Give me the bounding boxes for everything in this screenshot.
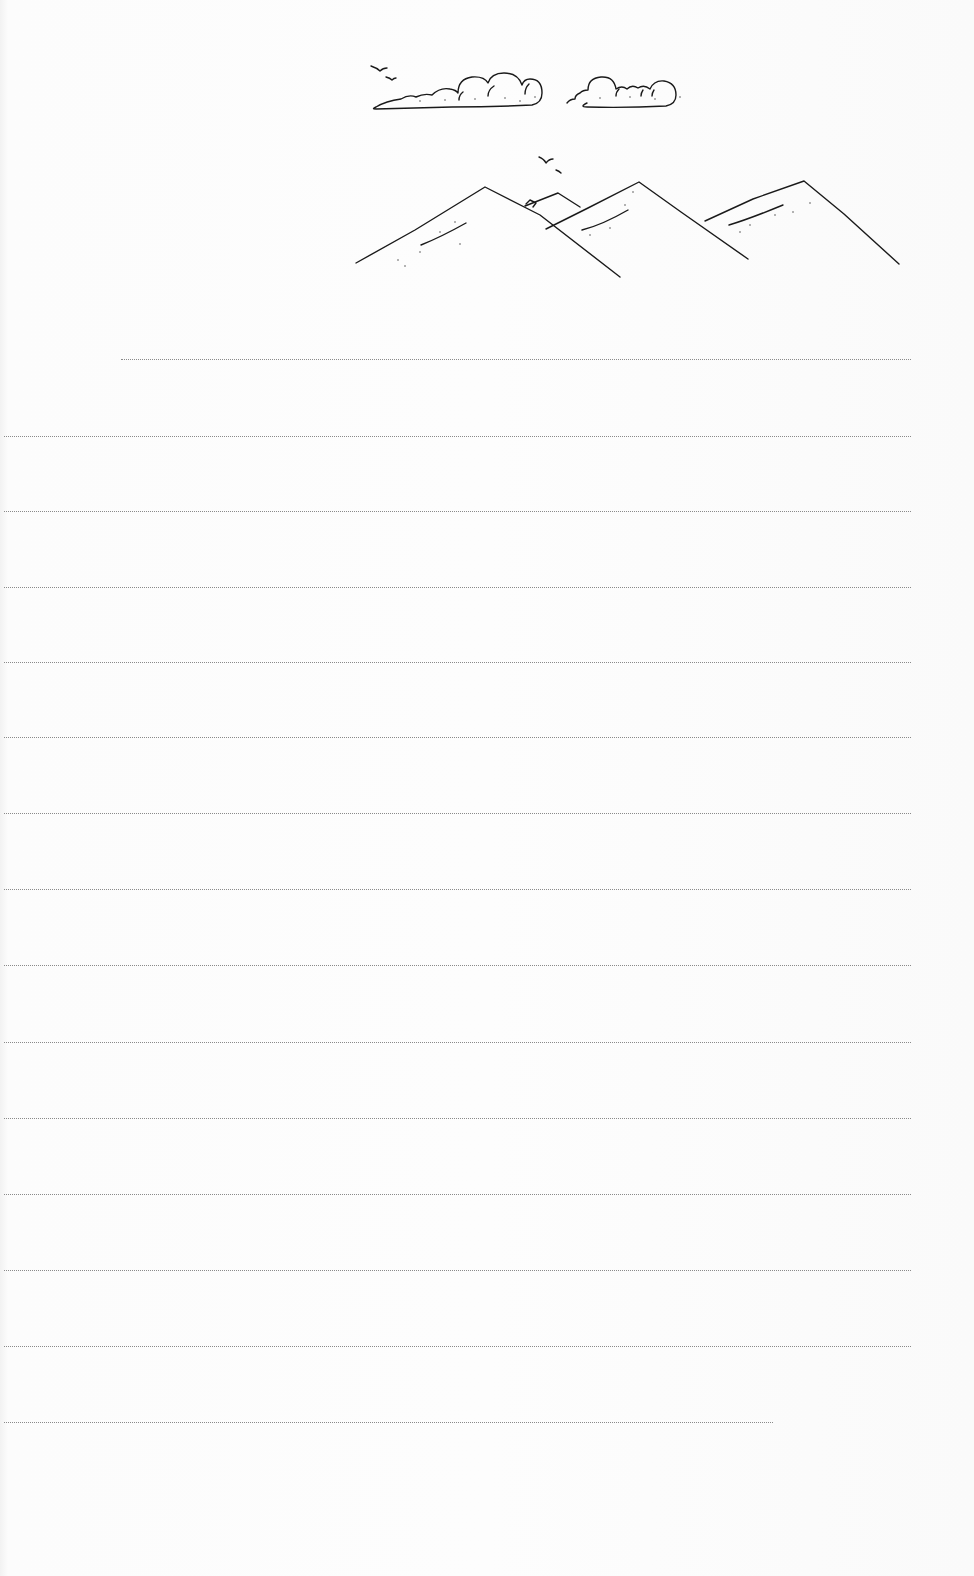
writing-line [4,1422,773,1423]
writing-line [121,359,911,360]
stationery-page [0,0,974,1576]
mountain-icon [356,187,620,277]
writing-line [4,1118,911,1119]
bird-icon [371,66,396,80]
writing-line [4,511,911,512]
writing-line [4,662,911,663]
writing-line [4,436,911,437]
writing-line [4,1346,911,1347]
bird-icon [539,157,561,173]
writing-line [4,813,911,814]
writing-line [4,965,911,966]
mountain-landscape-illustration [0,0,974,300]
writing-line [4,737,911,738]
writing-line [4,1042,911,1043]
cloud-icon [567,77,676,107]
writing-line [4,587,911,588]
mountain-icon [705,181,899,264]
mountain-icon [546,182,748,259]
writing-line [4,1270,911,1271]
writing-line [4,1194,911,1195]
writing-line [4,889,911,890]
cloud-icon [374,73,543,109]
